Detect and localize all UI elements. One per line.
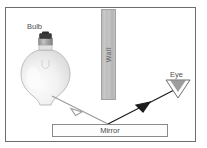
bulb-icon	[21, 32, 70, 106]
reflected-ray	[108, 88, 178, 124]
eye-icon	[166, 80, 190, 98]
mirror-label: Mirror	[52, 124, 168, 137]
bulb-label: Bulb	[27, 22, 42, 31]
diagram-canvas: Wall	[0, 0, 207, 148]
eye-label: Eye	[170, 70, 183, 79]
incident-ray	[52, 96, 108, 124]
